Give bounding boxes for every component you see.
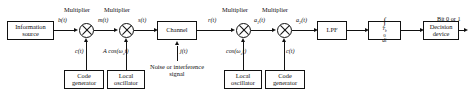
block-information-source[interactable]: Information source	[7, 21, 54, 40]
dsss-block-diagram: Information source b(t) Multiplier m(t) …	[0, 0, 469, 97]
wire-lpf-to-integrator	[347, 30, 367, 31]
block-local-oscillator-rx[interactable]: Local oscillator	[224, 70, 262, 89]
arrowhead-noise-to-channel	[175, 41, 179, 45]
multiplier-3-caption: Multiplier	[222, 6, 248, 13]
lpf-label: LPF	[326, 27, 337, 34]
wire-noise-to-channel	[177, 46, 178, 61]
signal-label-c-t-tx: c(t)	[75, 47, 84, 54]
wire-integrator-to-decision	[401, 30, 422, 31]
block-integrator[interactable]: ∫Tb0dt	[368, 21, 401, 40]
signal-label-s-t: s(t)	[138, 16, 146, 23]
noise-label-line1: Noise or	[150, 63, 172, 70]
block-code-generator-rx[interactable]: Code generator	[265, 70, 305, 89]
arrowhead-decision-output	[464, 28, 468, 32]
signal-label-a-cos-tx: A cos(ωct)	[103, 47, 129, 56]
block-local-oscillator-tx[interactable]: Local oscillator	[107, 70, 145, 89]
wire-mult3-to-mult4	[251, 30, 274, 31]
integrator-expression: ∫Tb0dt	[382, 17, 386, 44]
arrowhead-codegen-rx-to-mult4	[282, 38, 286, 42]
wire-mult1-to-mult2	[94, 30, 116, 31]
decision-device-label-line2: device	[430, 31, 453, 38]
wire-channel-to-mult3	[197, 30, 233, 31]
noise-label-line2: interference	[173, 63, 204, 70]
multiplier-3[interactable]	[236, 23, 251, 38]
signal-label-cos-rx: cos(ωct)	[226, 47, 246, 56]
local-oscillator-tx-label-line2: oscillator	[114, 80, 138, 87]
local-oscillator-rx-label-line2: oscillator	[231, 80, 255, 87]
output-label-bit: Bit 0 or 1	[437, 15, 461, 22]
arrowhead-source-to-mult1	[74, 28, 78, 32]
arrowhead-osc-tx-to-mult2	[124, 38, 128, 42]
annotation-noise-interference: Noise or interference signal	[147, 63, 207, 77]
wire-source-to-mult1	[54, 30, 76, 31]
signal-label-b-t: b(t)	[58, 16, 67, 23]
arrowhead-mult1-to-mult2	[114, 28, 118, 32]
multiplier-2-caption: Multiplier	[104, 6, 130, 13]
block-decision-device[interactable]: Decision device	[423, 21, 459, 40]
signal-label-c-t-rx: c(t)	[286, 47, 295, 54]
integral-sign: ∫	[382, 17, 386, 26]
wire-codegen-rx-to-mult4	[284, 42, 285, 70]
multiplier-1[interactable]	[79, 23, 94, 38]
block-channel[interactable]: Channel	[157, 21, 197, 40]
signal-label-a2-t: a2(t)	[296, 16, 307, 25]
code-generator-tx-label-line2: generator	[72, 80, 96, 87]
signal-label-j-t: j(t)	[180, 47, 188, 54]
integral-differential: dt	[382, 38, 386, 44]
arrowhead-mult3-to-mult4	[272, 28, 276, 32]
arrowhead-codegen-tx-to-mult1	[84, 38, 88, 42]
wire-mult4-to-lpf	[292, 30, 316, 31]
arrowhead-osc-rx-to-mult3	[241, 38, 245, 42]
multiplier-2[interactable]	[119, 23, 134, 38]
signal-label-m-t: m(t)	[98, 16, 108, 23]
multiplier-4-caption: Multiplier	[262, 6, 288, 13]
multiplier-4[interactable]	[277, 23, 292, 38]
wire-codegen-tx-to-mult1	[86, 42, 87, 70]
code-generator-rx-label-line2: generator	[273, 80, 297, 87]
arrowhead-channel-to-mult3	[231, 28, 235, 32]
integral-upper-limit: Tb	[382, 26, 386, 33]
noise-label-line3: signal	[169, 70, 184, 77]
multiplier-1-caption: Multiplier	[64, 6, 90, 13]
signal-label-a1-t: a1(t)	[254, 16, 265, 25]
channel-label: Channel	[166, 27, 187, 34]
block-code-generator-tx[interactable]: Code generator	[64, 70, 104, 89]
wire-mult2-to-channel	[134, 30, 156, 31]
block-lpf[interactable]: LPF	[317, 21, 347, 40]
signal-label-r-t: r(t)	[208, 16, 216, 23]
information-source-label-line2: source	[15, 31, 46, 38]
